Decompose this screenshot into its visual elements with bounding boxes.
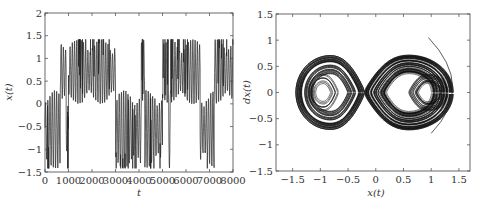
time-series-x-ticks: 010002000300040005000600070008000 <box>42 13 246 186</box>
y-tick-label: 0.5 <box>26 76 42 87</box>
y-tick-label: 0.5 <box>257 61 273 72</box>
time-series-x-label: t <box>137 187 142 198</box>
y-tick-label: 0 <box>267 87 273 98</box>
x-tick-label: 3000 <box>103 175 128 186</box>
x-tick-label: 7000 <box>197 175 222 186</box>
y-tick-label: 1.5 <box>26 30 42 41</box>
time-series-y-label: x(t) <box>3 83 14 101</box>
time-series-panel: 010002000300040005000600070008000 −1.5−1… <box>3 8 246 199</box>
phase-portrait-x-label: x(t) <box>367 187 385 198</box>
y-tick-label: 1.5 <box>257 9 273 20</box>
x-tick-label: 4000 <box>126 175 151 186</box>
y-tick-label: −1.5 <box>18 167 42 178</box>
x-tick-label: −1.5 <box>280 174 304 185</box>
x-tick-label: −1 <box>313 174 328 185</box>
x-tick-label: 0 <box>42 175 48 186</box>
y-tick-label: 0 <box>36 98 42 109</box>
y-tick-label: −1 <box>27 144 42 155</box>
y-tick-label: 1 <box>36 53 42 64</box>
phase-portrait-panel: −1.5−1−0.500.511.5 −1.5−1−0.500.511.5 x(… <box>241 9 470 199</box>
y-tick-label: −0.5 <box>249 113 273 124</box>
y-tick-label: 1 <box>267 35 273 46</box>
x-tick-label: 8000 <box>220 175 245 186</box>
time-series-line <box>45 39 233 168</box>
y-tick-label: −1.5 <box>249 166 273 177</box>
x-tick-label: −0.5 <box>336 174 360 185</box>
x-tick-label: 1 <box>428 174 434 185</box>
x-tick-label: 0.5 <box>396 174 412 185</box>
y-tick-label: 2 <box>36 8 42 19</box>
x-tick-label: 1.5 <box>451 174 467 185</box>
phase-portrait-line <box>296 38 454 134</box>
x-tick-label: 5000 <box>150 175 175 186</box>
phase-portrait-y-label: dx(t) <box>241 80 252 104</box>
x-tick-label: 6000 <box>173 175 198 186</box>
y-tick-label: −1 <box>258 139 273 150</box>
x-tick-label: 2000 <box>79 175 104 186</box>
y-tick-label: −0.5 <box>18 121 42 132</box>
figure: 010002000300040005000600070008000 −1.5−1… <box>0 0 478 208</box>
x-tick-label: 1000 <box>56 175 81 186</box>
x-tick-label: 0 <box>373 174 379 185</box>
